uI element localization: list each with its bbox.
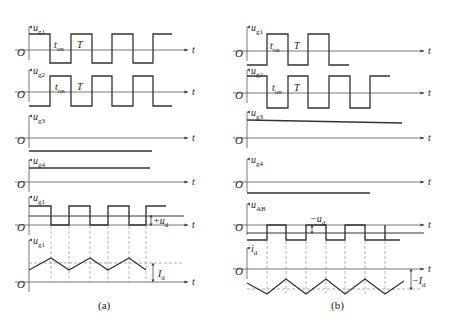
annotation: T (294, 40, 301, 51)
annotation-main: T (294, 40, 301, 51)
signal-label-id-sub: d (254, 249, 258, 257)
annotation-main: −u (310, 213, 322, 224)
annotation: ton (270, 40, 280, 54)
time-axis-label: t (428, 132, 431, 143)
signal-label-ug3-sub: g3 (38, 117, 46, 125)
annotation-sub: d (165, 221, 169, 229)
waveform-ug2 (247, 76, 390, 108)
switching-waveform-figure: tOug1tonTtOug2tonTtOug3tOug4tOug1+udtOug… (0, 0, 453, 331)
annotation-sub: d (422, 281, 426, 289)
origin-label: O (235, 134, 243, 146)
origin-label: O (235, 89, 243, 101)
signal-label-ug2-sub: g2 (256, 71, 264, 79)
signal-label-ug4: ug4 (251, 154, 264, 168)
panel-a: tOug1tonTtOug2tonTtOug3tOug4tOug1+udtOug… (15, 22, 195, 312)
signal-label-id-sub: g1 (38, 241, 46, 249)
annotation: Id (157, 268, 165, 282)
annotation-main: T (77, 39, 84, 50)
row-ug3: tOug3 (15, 111, 195, 151)
origin-label: O (17, 134, 25, 146)
row-uAB: tOuAB−ud (233, 199, 431, 240)
time-axis-label: t (428, 263, 431, 274)
row-ug2: tOug2tonT (233, 65, 431, 108)
annotation: T (77, 81, 84, 92)
time-axis-label: t (192, 176, 195, 187)
time-axis-label: t (192, 276, 195, 287)
waveform-id (29, 258, 146, 270)
signal-label-uAB-sub: AB (256, 205, 266, 213)
annotation: ton (272, 82, 282, 96)
waveform-diagram: tOug1tonTtOug2tonTtOug3tOug4tOug1+udtOug… (0, 0, 453, 331)
annotation-main: T (77, 81, 84, 92)
signal-label-ug1: ug1 (251, 22, 264, 36)
signal-label-uAB: uAB (251, 199, 266, 213)
signal-label-ug1-sub: g1 (38, 28, 46, 36)
origin-label: O (17, 178, 25, 190)
annotation-sub: d (161, 274, 165, 282)
signal-label-id: ug1 (33, 235, 46, 249)
origin-label: O (235, 178, 243, 190)
signal-label-uAB: ug1 (33, 192, 46, 206)
panel-caption: (a) (98, 299, 111, 312)
signal-label-ug1-sub: g1 (256, 28, 264, 36)
origin-label: O (17, 278, 25, 290)
signal-label-ug3: ug3 (33, 111, 46, 125)
time-axis-label: t (192, 132, 195, 143)
row-ug3: tOug3 (233, 107, 431, 148)
waveform-ug2 (29, 76, 172, 106)
signal-label-uAB-sub: g1 (38, 198, 46, 206)
annotation: T (294, 82, 301, 93)
annotation-sub: on (275, 88, 283, 96)
origin-label: O (17, 88, 25, 100)
row-ug1: tOug1tonT (233, 22, 431, 65)
annotation: ton (55, 81, 65, 95)
time-axis-label: t (428, 87, 431, 98)
signal-label-ug2: ug2 (251, 65, 264, 79)
annotation: T (77, 39, 84, 50)
signal-label-ug4: ug4 (33, 155, 46, 169)
time-axis-label: t (428, 176, 431, 187)
signal-label-ug2-sub: g2 (38, 71, 46, 79)
origin-label: O (17, 221, 25, 233)
waveform-id (247, 279, 404, 294)
time-axis-label: t (192, 86, 195, 97)
origin-label: O (235, 265, 243, 277)
panel-b: tOug1tonTtOug2tonTtOug3tOug4tOuAB−udtOid… (233, 22, 431, 312)
row-uAB: tOug1+ud (15, 192, 195, 235)
annotation: −Id (412, 275, 426, 289)
time-axis-label: t (428, 219, 431, 230)
origin-label: O (17, 46, 25, 58)
panel-caption: (b) (331, 299, 344, 312)
row-id: tOug1Id (15, 235, 195, 292)
time-axis-label: t (192, 44, 195, 55)
time-axis-label: t (192, 219, 195, 230)
annotation-main: +u (153, 215, 165, 226)
annotation-sub: on (273, 46, 281, 54)
origin-label: O (235, 221, 243, 233)
row-ug4: tOug4 (15, 155, 195, 192)
annotation-sub: on (58, 87, 66, 95)
row-ug2: tOug2tonT (15, 65, 195, 106)
waveform-ug3 (247, 120, 402, 123)
origin-label: O (235, 47, 243, 59)
annotation: +ud (153, 215, 169, 229)
signal-label-id: id (251, 243, 258, 257)
waveform-ug1 (29, 34, 172, 63)
row-ug4: tOug4 (233, 154, 431, 193)
annotation-sub: d (322, 219, 326, 227)
annotation-sub: on (57, 45, 65, 53)
annotation: ton (54, 39, 64, 53)
annotation-main: T (294, 82, 301, 93)
signal-label-ug2: ug2 (33, 65, 46, 79)
row-ug1: tOug1tonT (15, 22, 195, 63)
time-axis-label: t (428, 45, 431, 56)
row-id: tOid−Id (233, 243, 431, 294)
signal-label-ug4-sub: g4 (256, 160, 264, 168)
signal-label-ug3: ug3 (251, 107, 264, 121)
